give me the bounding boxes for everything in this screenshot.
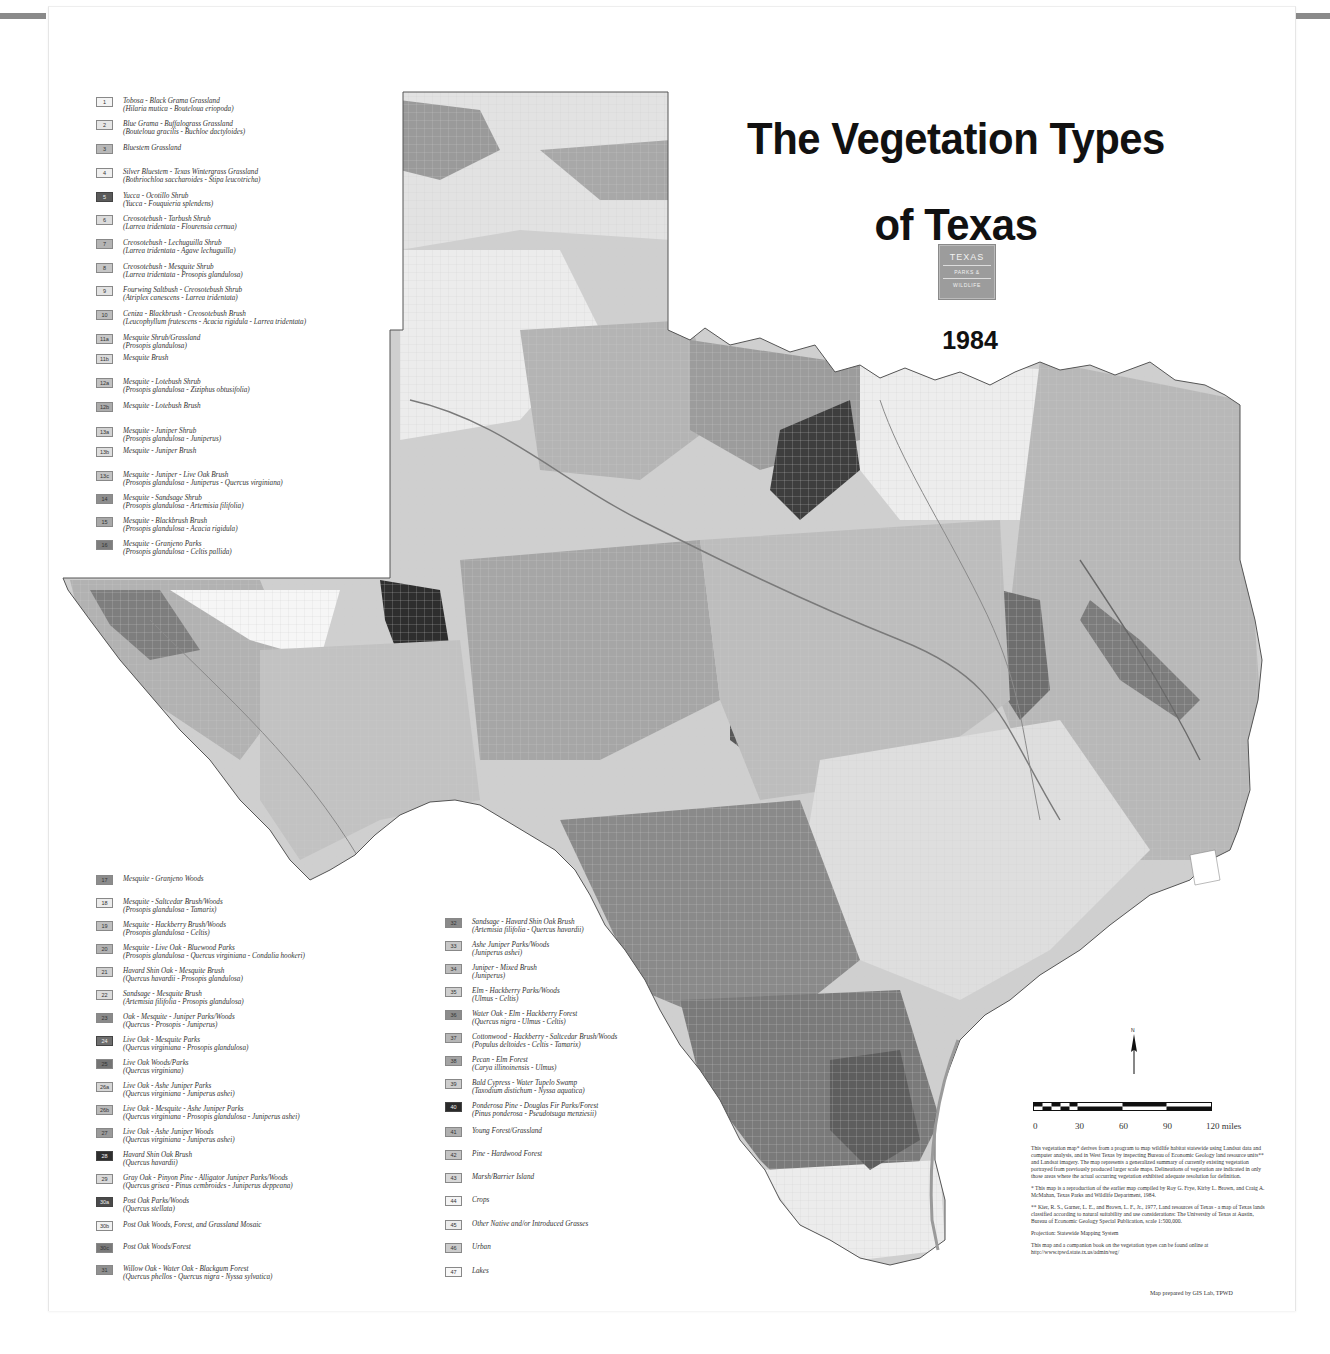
legend-name: Bald Cypress - Water Tupelo Swamp: [472, 1079, 585, 1087]
legend-text: Fourwing Saltbush - Creosotebush Shrub(A…: [123, 286, 242, 302]
legend-swatch: 44: [445, 1196, 462, 1206]
legend-name: Ponderosa Pine - Douglas Fir Parks/Fores…: [472, 1102, 598, 1110]
legend-text: Willow Oak - Water Oak - Blackgum Forest…: [123, 1265, 272, 1281]
legend-swatch: 41: [445, 1127, 462, 1137]
legend-item-25: 25Live Oak Woods/Parks(Quercus virginian…: [96, 1059, 189, 1075]
legend-item-35: 35Elm - Hackberry Parks/Woods(Ulmus - Ce…: [445, 987, 560, 1003]
legend-name: Mesquite - Hackberry Brush/Woods: [123, 921, 226, 929]
legend-swatch: 24: [96, 1036, 113, 1046]
legend-swatch: 7: [96, 239, 113, 249]
legend-name: Post Oak Woods/Forest: [123, 1243, 191, 1251]
legend-name: Mesquite - Blackbrush Brush: [123, 517, 238, 525]
legend-swatch: 40: [445, 1102, 462, 1112]
legend-swatch: 2: [96, 120, 113, 130]
legend-swatch: 12a: [96, 378, 113, 388]
legend-text: Havard Shin Oak Brush(Quercus havardii): [123, 1151, 192, 1167]
legend-name: Live Oak - Mesquite - Ashe Juniper Parks: [123, 1105, 300, 1113]
legend-item-32: 32Sandsage - Havard Shin Oak Brush(Artem…: [445, 918, 584, 934]
legend-scientific-name: (Artemisia filifolia - Quercus havardii): [472, 926, 584, 934]
legend-scientific-name: (Leucophyllum frutescens - Acacia rigidu…: [123, 318, 306, 326]
legend-name: Mesquite - Juniper Brush: [123, 447, 196, 455]
legend-text: Mesquite - Sandsage Shrub(Prosopis gland…: [123, 494, 244, 510]
legend-name: Havard Shin Oak Brush: [123, 1151, 192, 1159]
legend-text: Urban: [472, 1243, 491, 1251]
legend-text: Post Oak Parks/Woods(Quercus stellata): [123, 1197, 189, 1213]
legend-swatch: 32: [445, 918, 462, 928]
map-notes: This vegetation map* derives from a prog…: [1031, 1145, 1271, 1261]
legend-name: Mesquite Shrub/Grassland: [123, 334, 200, 342]
legend-swatch: 35: [445, 987, 462, 997]
legend-swatch: 13b: [96, 447, 113, 457]
legend-scientific-name: (Prosopis glandulosa - Celtis pallida): [123, 548, 232, 556]
legend-text: Pine - Hardwood Forest: [472, 1150, 542, 1158]
legend-name: Water Oak - Elm - Hackberry Forest: [472, 1010, 577, 1018]
legend-scientific-name: (Populus deltoides - Celtis - Tamarix): [472, 1041, 617, 1049]
legend-item-7: 7Creosotebush - Lechuguilla Shrub(Larrea…: [96, 239, 236, 255]
legend-swatch: 10: [96, 310, 113, 320]
legend-swatch: 13c: [96, 471, 113, 481]
legend-text: Creosotebush - Tarbush Shrub(Larrea trid…: [123, 215, 237, 231]
legend-item-4: 4Silver Bluestem - Texas Wintergrass Gra…: [96, 168, 260, 184]
legend-text: Marsh/Barrier Island: [472, 1173, 534, 1181]
note-online: This map and a companion book on the veg…: [1031, 1242, 1271, 1256]
legend-swatch: 16: [96, 540, 113, 550]
legend-name: Creosotebush - Lechuguilla Shrub: [123, 239, 236, 247]
legend-scientific-name: (Juniperus ashei): [472, 949, 549, 957]
legend-text: Other Native and/or Introduced Grasses: [472, 1220, 588, 1228]
legend-text: Live Oak - Mesquite Parks(Quercus virgin…: [123, 1036, 248, 1052]
scale-label-30: 30: [1075, 1121, 1084, 1131]
map-credit: Map prepared by GIS Lab, TPWD: [1150, 1290, 1233, 1296]
legend-scientific-name: (Taxodium distichum - Nyssa aquatica): [472, 1087, 585, 1095]
legend-swatch: 11a: [96, 334, 113, 344]
legend-scientific-name: (Quercus phellos - Quercus nigra - Nyssa…: [123, 1273, 272, 1281]
legend-text: Mesquite - Blackbrush Brush(Prosopis gla…: [123, 517, 238, 533]
legend-item-20: 20Mesquite - Live Oak - Bluewood Parks(P…: [96, 944, 305, 960]
legend-name: Havard Shin Oak - Mesquite Brush: [123, 967, 243, 975]
legend-text: Ceniza - Blackbrush - Creosotebush Brush…: [123, 310, 306, 326]
legend-text: Sandsage - Havard Shin Oak Brush(Artemis…: [472, 918, 584, 934]
legend-item-13a: 13aMesquite - Juniper Shrub(Prosopis gla…: [96, 427, 221, 443]
legend-swatch: 25: [96, 1059, 113, 1069]
legend-item-43: 43Marsh/Barrier Island: [445, 1173, 534, 1183]
legend-text: Mesquite - Granjeno Parks(Prosopis gland…: [123, 540, 232, 556]
legend-swatch: 1: [96, 97, 113, 107]
legend-name: Willow Oak - Water Oak - Blackgum Forest: [123, 1265, 272, 1273]
legend-name: Fourwing Saltbush - Creosotebush Shrub: [123, 286, 242, 294]
legend-name: Silver Bluestem - Texas Wintergrass Gras…: [123, 168, 260, 176]
legend-text: Live Oak - Mesquite - Ashe Juniper Parks…: [123, 1105, 300, 1121]
legend-scientific-name: (Quercus havardii - Prosopis glandulosa): [123, 975, 243, 983]
logo-line-1: TEXAS: [943, 252, 991, 266]
scale-label-60: 60: [1119, 1121, 1128, 1131]
legend-swatch: 46: [445, 1243, 462, 1253]
legend-item-29: 29Gray Oak - Pinyon Pine - Alligator Jun…: [96, 1174, 293, 1190]
legend-item-41: 41Young Forest/Grassland: [445, 1127, 542, 1137]
legend-text: Sandsage - Mesquite Brush(Artemisia fili…: [123, 990, 244, 1006]
legend-swatch: 47: [445, 1267, 462, 1277]
legend-swatch: 12b: [96, 402, 113, 412]
legend-swatch: 8: [96, 263, 113, 273]
legend-text: Live Oak - Ashe Juniper Parks(Quercus vi…: [123, 1082, 235, 1098]
legend-scientific-name: (Quercus virginiana - Prosopis glandulos…: [123, 1113, 300, 1121]
legend-name: Ashe Juniper Parks/Woods: [472, 941, 549, 949]
note-reference: ** Kier, R. S., Garner, L. E., and Brown…: [1031, 1204, 1271, 1225]
legend-name: Mesquite - Lotebush Brush: [123, 402, 201, 410]
legend-name: Sandsage - Mesquite Brush: [123, 990, 244, 998]
legend-name: Crops: [472, 1196, 489, 1204]
scale-labels: 0 30 60 90 120 miles: [1033, 1121, 1273, 1133]
note-projection: Projection: Statewide Mapping System: [1031, 1230, 1271, 1237]
legend-item-39: 39Bald Cypress - Water Tupelo Swamp(Taxo…: [445, 1079, 585, 1095]
legend-item-23: 23Oak - Mesquite - Juniper Parks/Woods(Q…: [96, 1013, 235, 1029]
legend-scientific-name: (Juniperus): [472, 972, 537, 980]
title-line-1: The Vegetation Types: [742, 96, 1170, 182]
legend-item-6: 6Creosotebush - Tarbush Shrub(Larrea tri…: [96, 215, 237, 231]
legend-scientific-name: (Artemisia filifolia - Prosopis glandulo…: [123, 998, 244, 1006]
legend-scientific-name: (Prosopis glandulosa - Ziziphus obtusifo…: [123, 386, 250, 394]
legend-text: Pecan - Elm Forest(Carya illinoinensis -…: [472, 1056, 556, 1072]
legend-scientific-name: (Larrea tridentata - Agave lechuguilla): [123, 247, 236, 255]
legend-swatch: 15: [96, 517, 113, 527]
legend-scientific-name: (Yucca - Fouquieria splendens): [123, 200, 213, 208]
legend-item-46: 46Urban: [445, 1243, 491, 1253]
legend-text: Live Oak Woods/Parks(Quercus virginiana): [123, 1059, 189, 1075]
map-year: 1984: [920, 326, 1020, 355]
legend-swatch: 9: [96, 286, 113, 296]
